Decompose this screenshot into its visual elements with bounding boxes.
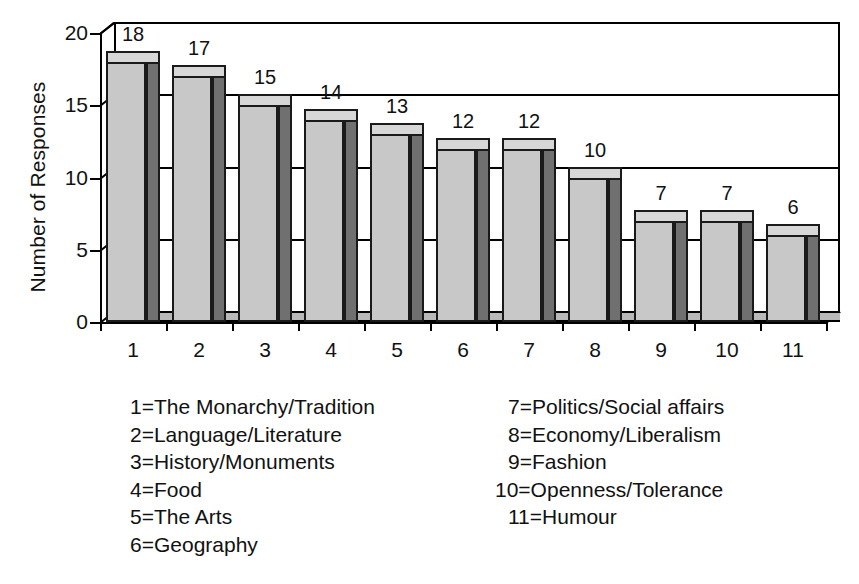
x-axis-tick-label: 10 [694,339,760,360]
bar-value-label: 12 [482,111,576,131]
legend-column-right: 7=Politics/Social affairs8=Economy/Liber… [495,393,724,531]
legend-item: 11=Humour [495,503,724,531]
bar-side-face [146,51,160,322]
legend-item: 4=Food [130,476,375,504]
x-axis-tick-label: 3 [232,339,298,360]
bar [436,138,490,322]
x-axis-tick-label: 2 [166,339,232,360]
x-axis-tick-mark [760,322,762,331]
x-axis-tick-label: 8 [562,339,628,360]
y-axis-tick-label: 5 [44,239,88,260]
bar [172,65,226,322]
x-axis-tick-mark [496,322,498,331]
figure-3d-bar-chart: Number of Responses 05101520 18171514131… [0,0,859,584]
bar-front-face [502,149,542,322]
y-axis-tick-label: 0 [44,311,88,332]
legend-item: 9=Fashion [495,448,724,476]
legend-item: 6=Geography [130,531,375,559]
y-axis-tick-label: 10 [44,167,88,188]
bar-value-label: 17 [152,38,246,58]
x-axis-tick-label: 11 [760,339,826,360]
x-axis-tick-label: 6 [430,339,496,360]
legend-column-left: 1=The Monarchy/Tradition2=Language/Liter… [130,393,375,558]
bar [766,224,820,322]
x-axis-tick-label: 5 [364,339,430,360]
bar-front-face [568,178,608,323]
x-axis-tick-mark [166,322,168,331]
x-axis-tick-mark [100,322,102,331]
legend-item: 3=History/Monuments [130,448,375,476]
bar-side-face [344,109,358,322]
x-axis-tick-mark [232,322,234,331]
x-axis-tick-label: 1 [100,339,166,360]
bar-front-face [304,120,344,322]
bar [700,210,754,322]
x-axis-tick-mark [364,322,366,331]
bar-front-face [634,221,674,322]
x-axis-tick-label: 7 [496,339,562,360]
bar-value-label: 10 [548,140,642,160]
bottom-caption [0,574,859,584]
bar-front-face [238,105,278,322]
bar-front-face [766,235,806,322]
bar [634,210,688,322]
x-axis-tick-label: 4 [298,339,364,360]
x-axis-tick-mark [562,322,564,331]
bar-value-label: 6 [746,197,840,217]
bar [304,109,358,322]
y-axis-tick-mark [90,105,100,107]
x-axis-tick-mark [628,322,630,331]
x-axis-tick-label: 9 [628,339,694,360]
legend: 1=The Monarchy/Tradition2=Language/Liter… [0,393,859,568]
x-axis-line [100,322,826,324]
bar-front-face [370,134,410,322]
legend-item: 5=The Arts [130,503,375,531]
bar-side-face [806,224,820,322]
x-axis-tick-mark [298,322,300,331]
bar-side-face [212,65,226,322]
x-axis-tick-mark [826,322,828,331]
y-axis-tick-label: 20 [44,22,88,43]
bar-side-face [410,123,424,322]
bar [502,138,556,322]
x-axis-tick-mark [694,322,696,331]
bar-front-face [106,62,146,322]
bar-front-face [700,221,740,322]
bar [370,123,424,322]
legend-item: 2=Language/Literature [130,421,375,449]
legend-item: 10=Openness/Tolerance [495,476,724,504]
bar-side-face [674,210,688,322]
plot-area: Number of Responses 05101520 18171514131… [0,0,859,375]
y-axis-line [100,33,102,322]
legend-item: 8=Economy/Liberalism [495,421,724,449]
bar-side-face [542,138,556,322]
bar-side-face [476,138,490,322]
bar-side-face [278,94,292,322]
bar-side-face [740,210,754,322]
y-axis-tick-label: 15 [44,94,88,115]
legend-item: 1=The Monarchy/Tradition [130,393,375,421]
bar [238,94,292,322]
legend-item: 7=Politics/Social affairs [495,393,724,421]
bar-front-face [436,149,476,322]
bar-front-face [172,76,212,322]
x-axis-tick-mark [430,322,432,331]
bar [106,51,160,322]
